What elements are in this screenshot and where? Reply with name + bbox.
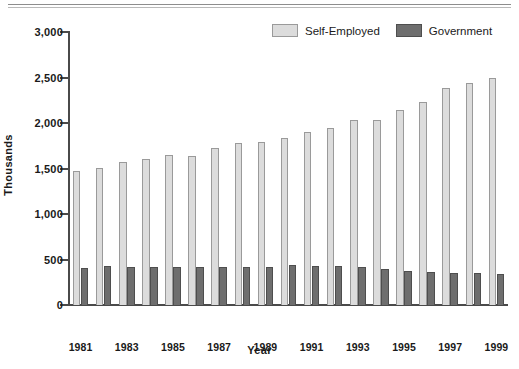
bar-government-1994 [381, 269, 389, 305]
bar-government-1999 [497, 274, 505, 305]
y-axis-tick-label: 3,000 [34, 26, 63, 38]
bar-government-1990 [289, 265, 297, 305]
y-axis-tick-label: 0 [57, 299, 63, 311]
bar-self-employed-1992 [327, 128, 335, 305]
plot-area: 05001,0001,5002,0002,5003,00019811983198… [69, 32, 508, 305]
y-axis-tick-label: 500 [44, 254, 63, 266]
bar-self-employed-1994 [373, 120, 381, 305]
bar-government-1985 [173, 267, 181, 305]
bar-self-employed-1998 [466, 83, 474, 305]
bar-government-1987 [219, 267, 227, 305]
bar-government-1982 [104, 266, 112, 305]
bar-chart-figure: Self-Employed Government Thousands 05001… [0, 0, 519, 369]
page-rule-top [8, 4, 511, 5]
bar-self-employed-1997 [442, 88, 450, 305]
bar-self-employed-1993 [350, 120, 358, 305]
y-axis-title: Thousands [2, 134, 14, 195]
y-axis-tick-label: 1,500 [34, 163, 63, 175]
bar-self-employed-1989 [258, 142, 266, 305]
bar-government-1983 [127, 267, 135, 305]
bar-government-1989 [266, 267, 274, 305]
bar-government-1991 [312, 266, 320, 305]
bar-government-1996 [427, 272, 435, 305]
bar-government-1984 [150, 267, 158, 305]
bar-self-employed-1984 [142, 159, 150, 306]
bar-self-employed-1983 [119, 162, 127, 305]
bar-government-1986 [196, 267, 204, 305]
bar-self-employed-1990 [281, 138, 289, 305]
bar-government-1997 [450, 273, 458, 305]
bar-self-employed-1981 [73, 171, 81, 305]
bar-government-1993 [358, 267, 366, 305]
bar-government-1981 [81, 268, 89, 305]
bar-government-1992 [335, 266, 343, 305]
y-axis-tick-label: 2,500 [34, 72, 63, 84]
x-axis-title: Year [0, 344, 519, 356]
bar-self-employed-1982 [96, 168, 104, 305]
bar-government-1998 [474, 273, 482, 305]
bar-self-employed-1986 [188, 156, 196, 305]
bar-self-employed-1985 [165, 155, 173, 305]
y-axis-tick-label: 1,000 [34, 208, 63, 220]
page-rule-top-secondary [8, 7, 511, 8]
bar-self-employed-1996 [419, 102, 427, 305]
bar-self-employed-1991 [304, 132, 312, 305]
bar-government-1995 [404, 271, 412, 305]
bar-self-employed-1988 [235, 143, 243, 305]
bar-self-employed-1987 [211, 148, 219, 305]
bar-government-1988 [243, 267, 251, 305]
bar-self-employed-1999 [489, 78, 497, 305]
y-axis-tick-label: 2,000 [34, 117, 63, 129]
bar-self-employed-1995 [396, 110, 404, 305]
